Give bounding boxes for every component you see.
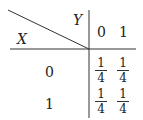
denominator: 4 (117, 102, 129, 115)
col-header-1: 1 (119, 25, 128, 39)
cell-1-1: 1 4 (117, 88, 129, 115)
numerator: 1 (117, 88, 129, 102)
numerator: 1 (95, 88, 107, 102)
cell-1-0: 1 4 (95, 88, 107, 115)
denominator: 4 (95, 71, 107, 84)
row-header-1: 1 (45, 97, 54, 111)
numerator: 1 (95, 57, 107, 71)
numerator: 1 (117, 57, 129, 71)
denominator: 4 (117, 71, 129, 84)
cell-0-0: 1 4 (95, 57, 107, 84)
col-variable-label: Y (73, 13, 82, 27)
row-variable-label: X (17, 32, 27, 46)
cell-0-1: 1 4 (117, 57, 129, 84)
denominator: 4 (95, 102, 107, 115)
row-header-0: 0 (45, 65, 54, 79)
col-header-0: 0 (97, 25, 106, 39)
